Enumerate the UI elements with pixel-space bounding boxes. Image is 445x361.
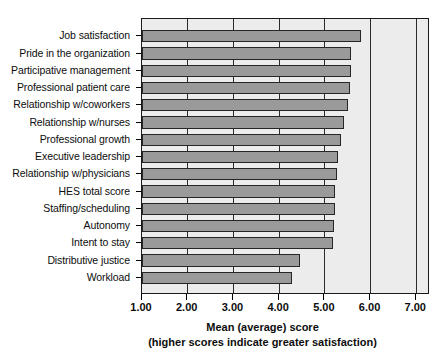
value-tick-label: 1.00: [130, 301, 151, 313]
category-label: Pride in the organization: [19, 47, 130, 59]
bar: [142, 203, 335, 215]
value-tick: [186, 294, 187, 300]
value-tick: [278, 294, 279, 300]
category-label: Workload: [87, 271, 130, 283]
value-tick: [232, 294, 233, 300]
plot-area: [141, 18, 429, 294]
category-label: Relationship w/coworkers: [13, 98, 130, 110]
value-tick-label: 2.00: [176, 301, 197, 313]
category-label: Job satisfaction: [59, 29, 130, 41]
value-tick-label: 3.00: [222, 301, 243, 313]
bar: [142, 82, 350, 94]
category-axis: Job satisfactionPride in the organizatio…: [0, 18, 136, 294]
bar: [142, 272, 292, 284]
bar: [142, 168, 337, 180]
category-label: HES total score: [59, 185, 130, 197]
value-tick: [141, 294, 142, 300]
bar: [142, 134, 341, 146]
category-label: Staffing/scheduling: [43, 202, 130, 214]
axis-title-block: Mean (average) score (higher scores indi…: [80, 320, 445, 350]
bar: [142, 220, 334, 232]
value-tick-label: 7.00: [405, 301, 426, 313]
bar: [142, 99, 348, 111]
value-tick-label: 4.00: [267, 301, 288, 313]
value-tick: [415, 294, 416, 300]
value-tick: [369, 294, 370, 300]
value-tick-label: 5.00: [313, 301, 334, 313]
category-label: Intent to stay: [71, 236, 130, 248]
category-label: Participative management: [11, 64, 130, 76]
category-label: Relationship w/physicians: [12, 167, 130, 179]
bar: [142, 116, 344, 128]
category-label: Autonomy: [84, 219, 130, 231]
gridline: [416, 19, 417, 293]
bar: [142, 30, 361, 42]
category-label: Executive leadership: [35, 150, 130, 162]
category-label: Relationship w/nurses: [29, 116, 130, 128]
bar: [142, 185, 335, 197]
value-axis: 1.002.003.004.005.006.007.00: [141, 294, 429, 320]
category-label: Distributive justice: [47, 254, 130, 266]
value-tick: [323, 294, 324, 300]
value-tick-label: 6.00: [359, 301, 380, 313]
x-axis-subtitle: (higher scores indicate greater satisfac…: [80, 335, 445, 350]
bar: [142, 237, 333, 249]
x-axis-title: Mean (average) score: [206, 321, 319, 333]
bar: [142, 47, 351, 59]
bar: [142, 65, 351, 77]
chart-figure: Job satisfactionPride in the organizatio…: [0, 0, 445, 361]
category-label: Professional growth: [40, 133, 130, 145]
gridline: [370, 19, 371, 293]
category-label: Professional patient care: [17, 81, 130, 93]
bar: [142, 254, 300, 266]
bar: [142, 151, 338, 163]
